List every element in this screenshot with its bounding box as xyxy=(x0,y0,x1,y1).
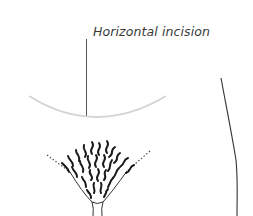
groin-line-left xyxy=(47,155,70,172)
cleft-line-left xyxy=(92,202,93,216)
cleft-line-right xyxy=(102,202,103,216)
body-contour-right xyxy=(221,78,237,216)
anatomy-illustration xyxy=(0,0,253,216)
hair-strokes xyxy=(62,141,134,198)
horizontal-incision-arc xyxy=(29,96,166,117)
